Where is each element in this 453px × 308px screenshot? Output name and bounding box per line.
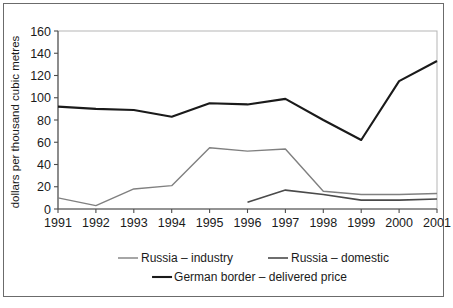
y-tick-label: 160: [30, 25, 51, 39]
x-tick-label: 1996: [234, 216, 262, 230]
y-axis-title-label: dollars per thousand cubic metres: [9, 35, 21, 208]
x-tick-label: 1998: [309, 216, 337, 230]
x-tick-label: 1993: [120, 216, 148, 230]
legend-item: Russia – domestic: [268, 251, 389, 265]
x-tick-label: 2000: [385, 216, 413, 230]
series-line-german-border-delivered-price: [58, 61, 437, 140]
x-tick-label: 1994: [158, 216, 186, 230]
series-line-russia-industry: [58, 148, 437, 206]
y-tick-label: 100: [30, 91, 51, 105]
plot-frame: [58, 31, 437, 209]
y-tick-label: 80: [37, 114, 51, 128]
x-tick-label: 2001: [423, 216, 451, 230]
y-tick-label: 120: [30, 69, 51, 83]
y-axis-title: dollars per thousand cubic metres: [9, 35, 21, 208]
y-tick-label: 0: [44, 203, 51, 217]
x-tick-label: 1997: [271, 216, 299, 230]
legend-item: Russia – industry: [118, 251, 233, 265]
y-tick-label: 40: [37, 158, 51, 172]
data-series-group: [58, 61, 437, 206]
x-tick-label: 1999: [347, 216, 375, 230]
x-axis-ticks: 1991199219931994199519961997199819992000…: [44, 209, 451, 230]
y-tick-label: 60: [37, 136, 51, 150]
chart-canvas: dollars per thousand cubic metres 020406…: [0, 0, 453, 308]
legend-label: German border – delivered price: [174, 270, 347, 284]
legend-label: Russia – industry: [141, 251, 233, 265]
legend-label: Russia – domestic: [291, 251, 389, 265]
plot-area: [58, 31, 437, 209]
y-tick-label: 20: [37, 180, 51, 194]
x-tick-label: 1995: [196, 216, 224, 230]
series-line-russia-domestic: [248, 190, 438, 202]
legend-item: German border – delivered price: [152, 270, 347, 284]
chart-legend: Russia – industryRussia – domesticGerman…: [118, 251, 389, 284]
line-chart-figure: dollars per thousand cubic metres 020406…: [0, 0, 453, 308]
x-tick-label: 1992: [82, 216, 110, 230]
y-axis-ticks: 020406080100120140160: [30, 25, 58, 217]
y-tick-label: 140: [30, 47, 51, 61]
x-tick-label: 1991: [44, 216, 72, 230]
